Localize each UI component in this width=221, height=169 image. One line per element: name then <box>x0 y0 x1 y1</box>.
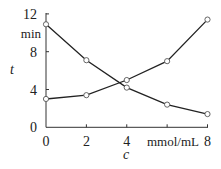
y-tick-label: 8 <box>30 45 37 60</box>
x-axis-unit: mmol/mL <box>147 134 199 149</box>
x-tick-label: 2 <box>83 134 90 149</box>
series-line <box>46 24 208 114</box>
series-decreasing <box>43 22 210 117</box>
series-group <box>43 17 210 117</box>
data-point-marker <box>205 111 210 116</box>
data-point-marker <box>124 85 129 90</box>
data-point-marker <box>165 102 170 107</box>
x-tick-label: 8 <box>204 134 211 149</box>
x-tick-label: 0 <box>43 134 50 149</box>
y-tick-label: 0 <box>30 120 37 135</box>
y-axis-unit: min <box>21 26 42 41</box>
data-point-marker <box>165 59 170 64</box>
y-axis-label: t <box>10 62 15 77</box>
data-point-marker <box>84 58 89 63</box>
line-chart: 04812 0248 min t mmol/mL c <box>0 0 221 169</box>
y-tick-label: 12 <box>23 7 37 22</box>
data-point-marker <box>124 77 129 82</box>
data-point-marker <box>205 17 210 22</box>
y-tick-label: 4 <box>30 83 37 98</box>
x-axis-label: c <box>123 147 130 162</box>
data-point-marker <box>84 93 89 98</box>
data-point-marker <box>43 96 48 101</box>
data-point-marker <box>43 22 48 27</box>
